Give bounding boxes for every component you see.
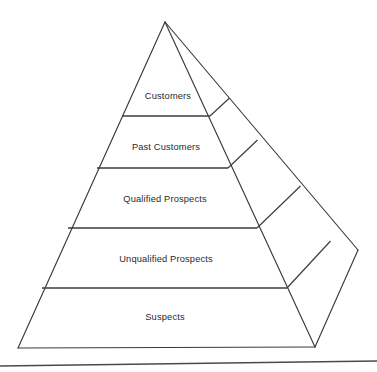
ground-baseline (0, 361, 377, 366)
tier-label-qualified-prospects: Qualified Prospects (123, 194, 207, 204)
tier-label-unqualified-prospects: Unqualified Prospects (119, 254, 213, 264)
tier-label-customers: Customers (145, 91, 191, 101)
tier-label-past-customers: Past Customers (132, 142, 200, 152)
tier-label-suspects: Suspects (145, 312, 185, 322)
pyramid-diagram: Customers Past Customers Qualified Prosp… (0, 0, 377, 372)
pyramid-svg: Customers Past Customers Qualified Prosp… (0, 0, 377, 372)
